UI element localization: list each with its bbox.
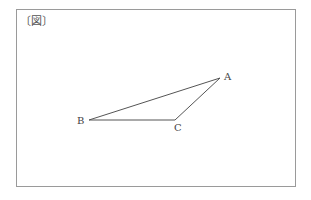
vertex-label-b: B [77,115,84,126]
vertex-label-c: C [174,122,182,133]
vertex-label-a: A [223,71,232,82]
triangle-diagram: A B C [0,0,311,200]
triangle-abc [89,78,220,120]
